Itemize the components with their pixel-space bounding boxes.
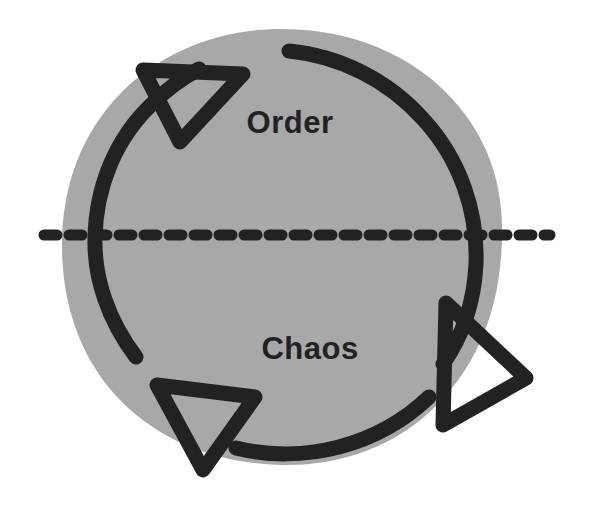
cycle-diagram-svg: Order Chaos bbox=[0, 0, 591, 508]
label-chaos: Chaos bbox=[261, 331, 358, 366]
label-order: Order bbox=[247, 105, 334, 140]
diagram-canvas: Order Chaos bbox=[0, 0, 591, 508]
